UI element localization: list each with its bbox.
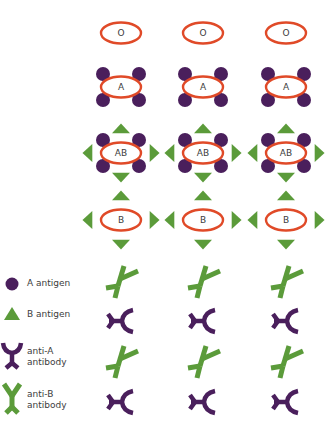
blood-cell-type-b: B (82, 190, 159, 249)
blood-type-label: O (282, 28, 289, 38)
anti-b-antibody-icon (188, 266, 220, 298)
b-antigen-triangle-icon (194, 240, 212, 250)
legend-label-anti-a-line2: antibody (27, 357, 67, 368)
blood-cell-type-o: O (101, 23, 141, 44)
blood-type-label: A (200, 82, 207, 92)
b-antigen-triangle-icon (164, 144, 174, 162)
b-antigen-triangle-icon (112, 240, 130, 250)
anti-a-antibody-icon (108, 391, 133, 413)
blood-cell-type-a: A (96, 67, 146, 107)
anti-a-antibody-icon (108, 310, 133, 332)
b-antigen-triangle-icon (247, 144, 257, 162)
anti-a-antibody-icon (273, 310, 298, 332)
blood-type-antigen-antibody-diagram: OOOAAAABABABBBB A antigen B antigen anti… (0, 0, 335, 424)
legend-anti-b-antibody-icon (4, 384, 20, 413)
legend-label-anti-b: anti-B antibody (27, 389, 67, 411)
b-antigen-triangle-icon (194, 173, 212, 183)
anti-b-antibody-icon (106, 346, 138, 378)
blood-type-label: B (118, 215, 124, 225)
blood-cell-type-ab: AB (164, 123, 241, 182)
blood-type-label: A (283, 82, 290, 92)
b-antigen-triangle-icon (150, 144, 160, 162)
b-antigen-triangle-icon (232, 211, 242, 229)
b-antigen-triangle-icon (315, 144, 325, 162)
b-antigen-triangle-icon (150, 211, 160, 229)
b-antigen-triangle-icon (277, 240, 295, 250)
legend-label-b-antigen: B antigen (27, 309, 70, 320)
blood-cell-type-b: B (247, 190, 324, 249)
anti-a-antibody-icon (273, 391, 298, 413)
blood-type-label: AB (197, 148, 209, 158)
legend-label-anti-a: anti-A antibody (27, 346, 67, 368)
blood-cell-type-ab: AB (82, 123, 159, 182)
b-antigen-triangle-icon (194, 190, 212, 200)
anti-b-antibody-icon (106, 266, 138, 298)
b-antigen-triangle-icon (112, 123, 130, 133)
b-antigen-triangle-icon (112, 190, 130, 200)
anti-a-antibody-icon (190, 310, 215, 332)
b-antigen-triangle-icon (315, 211, 325, 229)
b-antigen-triangle-icon (232, 144, 242, 162)
anti-b-antibody-icon (271, 266, 303, 298)
b-antigen-triangle-icon (194, 123, 212, 133)
anti-b-antibody-icon (271, 346, 303, 378)
anti-a-antibody-icon (190, 391, 215, 413)
b-antigen-triangle-icon (112, 173, 130, 183)
b-antigen-triangle-icon (277, 173, 295, 183)
legend-anti-a-antibody-icon (3, 343, 21, 368)
blood-cell-type-o: O (266, 23, 306, 44)
legend-label-a-antigen: A antigen (27, 278, 70, 289)
legend-label-anti-a-line1: anti-A (27, 346, 67, 357)
legend-label-anti-b-line2: antibody (27, 400, 67, 411)
legend-label-anti-b-line1: anti-B (27, 389, 67, 400)
legend-a-antigen-circle-icon (6, 278, 19, 291)
blood-type-label: O (117, 28, 124, 38)
b-antigen-triangle-icon (277, 123, 295, 133)
blood-type-label: A (118, 82, 125, 92)
b-antigen-triangle-icon (277, 190, 295, 200)
b-antigen-triangle-icon (82, 144, 92, 162)
b-antigen-triangle-icon (247, 211, 257, 229)
anti-b-antibody-icon (188, 346, 220, 378)
blood-type-label: B (283, 215, 289, 225)
blood-cell-type-b: B (164, 190, 241, 249)
b-antigen-triangle-icon (164, 211, 174, 229)
b-antigen-triangle-icon (82, 211, 92, 229)
blood-cell-type-a: A (178, 67, 228, 107)
blood-type-label: AB (280, 148, 292, 158)
blood-type-label: O (199, 28, 206, 38)
blood-type-label: AB (115, 148, 127, 158)
blood-type-label: B (200, 215, 206, 225)
legend-b-antigen-triangle-icon (4, 307, 20, 320)
blood-cell-type-a: A (261, 67, 311, 107)
blood-cell-type-ab: AB (247, 123, 324, 182)
blood-cell-type-o: O (183, 23, 223, 44)
